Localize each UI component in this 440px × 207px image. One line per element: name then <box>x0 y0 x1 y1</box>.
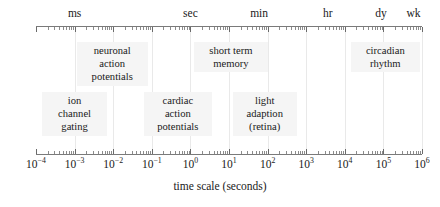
tick-minor <box>48 27 49 30</box>
tick-minor <box>63 151 64 154</box>
decade-label: 103 <box>298 159 313 171</box>
unit-marker-ms: ms <box>68 8 81 20</box>
annotation-line: (retina) <box>237 120 293 133</box>
tick-minor <box>107 151 108 154</box>
tick-minor <box>298 27 299 30</box>
annotation-line: potentials <box>81 70 144 83</box>
decade-label: 10−3 <box>65 159 85 171</box>
tick-major <box>422 149 423 154</box>
tick-minor <box>184 151 185 154</box>
tick-minor <box>71 27 72 30</box>
tick-minor <box>214 151 215 154</box>
tick-minor <box>170 151 171 154</box>
tick-minor <box>298 151 299 154</box>
tick-major <box>383 149 384 154</box>
tick-minor <box>98 27 99 30</box>
annotation-line: gating <box>46 120 104 133</box>
tick-minor <box>286 151 287 154</box>
tick-minor <box>318 151 319 154</box>
tick-minor <box>402 151 403 154</box>
decade-label: 100 <box>183 159 198 171</box>
tick-minor <box>325 151 326 154</box>
tick-minor <box>163 151 164 154</box>
tick-minor <box>125 151 126 154</box>
tick-minor <box>256 27 257 30</box>
tick-minor <box>105 27 106 30</box>
unit-marker-min: min <box>250 8 268 20</box>
tick-major <box>75 149 76 154</box>
axis-line-bottom <box>36 154 422 155</box>
tick-minor <box>380 151 381 154</box>
tick-minor <box>93 151 94 154</box>
annotation-line: memory <box>198 57 263 70</box>
tick-minor <box>102 151 103 154</box>
decade-label: 10−2 <box>103 159 123 171</box>
tick-minor <box>184 27 185 30</box>
tick-minor <box>48 151 49 154</box>
tick-major <box>75 27 76 32</box>
tick-minor <box>187 151 188 154</box>
decade-label: 10−4 <box>26 159 46 171</box>
tick-minor <box>217 27 218 30</box>
tick-major <box>113 27 114 32</box>
unit-marker-sec: sec <box>183 8 198 20</box>
tick-minor <box>241 151 242 154</box>
tick-minor <box>140 27 141 30</box>
tick-minor <box>300 27 301 30</box>
decade-label: 106 <box>414 159 429 171</box>
tick-minor <box>336 151 337 154</box>
tick-minor <box>179 151 180 154</box>
tick-minor <box>86 27 87 30</box>
tick-minor <box>356 27 357 30</box>
tick-minor <box>368 151 369 154</box>
tick-minor <box>413 151 414 154</box>
tick-minor <box>418 27 419 30</box>
tick-minor <box>368 27 369 30</box>
tick-minor <box>140 151 141 154</box>
tick-minor <box>105 151 106 154</box>
tick-minor <box>300 151 301 154</box>
annotation-line: rhythm <box>355 57 416 70</box>
tick-minor <box>98 151 99 154</box>
tick-minor <box>333 151 334 154</box>
tick-minor <box>148 27 149 30</box>
tick-minor <box>302 151 303 154</box>
tick-minor <box>54 27 55 30</box>
tick-minor <box>262 151 263 154</box>
tick-major <box>268 149 269 154</box>
tick-major <box>113 149 114 154</box>
annotation-cardiac-action-potentials: cardiacactionpotentials <box>144 92 212 136</box>
tick-minor <box>380 27 381 30</box>
tick-major <box>383 27 384 32</box>
tick-minor <box>329 27 330 30</box>
tick-major <box>422 27 423 32</box>
tick-major <box>229 27 230 32</box>
tick-minor <box>143 151 144 154</box>
tick-minor <box>132 151 133 154</box>
tick-minor <box>295 27 296 30</box>
tick-minor <box>125 27 126 30</box>
tick-minor <box>109 27 110 30</box>
tick-major <box>152 27 153 32</box>
tick-minor <box>220 151 221 154</box>
tick-minor <box>63 27 64 30</box>
tick-minor <box>256 151 257 154</box>
tick-minor <box>202 27 203 30</box>
tick-minor <box>375 151 376 154</box>
annotation-circadian-rhythm: circadianrhythm <box>351 42 420 72</box>
gridline <box>345 27 346 154</box>
unit-marker-dy: dy <box>375 8 387 20</box>
tick-minor <box>175 151 176 154</box>
tick-minor <box>107 27 108 30</box>
tick-minor <box>247 27 248 30</box>
tick-major <box>229 149 230 154</box>
tick-minor <box>163 27 164 30</box>
tick-minor <box>225 27 226 30</box>
tick-minor <box>291 27 292 30</box>
tick-minor <box>223 151 224 154</box>
tick-minor <box>209 151 210 154</box>
tick-minor <box>363 27 364 30</box>
tick-minor <box>220 27 221 30</box>
tick-major <box>345 149 346 154</box>
tick-minor <box>247 151 248 154</box>
